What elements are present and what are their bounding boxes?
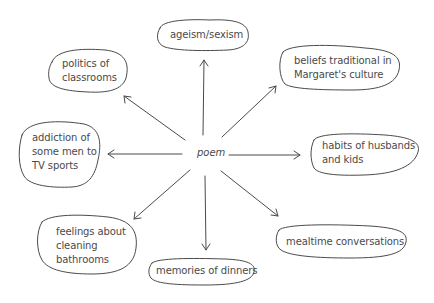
node-mealtime-conversations: mealtime conversations (286, 235, 404, 249)
node-beliefs-traditional: beliefs traditional in Margaret's cultur… (294, 54, 392, 82)
arrow-addiction (108, 150, 182, 158)
mind-map: poem ageism/sexism politics of classroom… (0, 0, 434, 303)
node-feelings-cleaning: feelings about cleaning bathrooms (56, 225, 126, 267)
arrow-feelings (134, 170, 190, 219)
arrow-beliefs (222, 86, 276, 137)
arrow-memories (202, 176, 210, 250)
node-memories-of-dinners: memories of dinners (156, 264, 257, 278)
node-addiction-tv-sports: addiction of some men to TV sports (32, 131, 97, 173)
arrow-habits (229, 151, 300, 159)
center-node-poem: poem (197, 147, 225, 158)
node-politics-of-classrooms: politics of classrooms (62, 57, 117, 85)
arrow-ageism (200, 60, 208, 135)
arrow-politics (124, 96, 185, 140)
node-ageism-sexism: ageism/sexism (170, 28, 243, 42)
arrow-mealtime (221, 171, 278, 216)
node-habits-husbands-kids: habits of husbands and kids (322, 139, 415, 167)
